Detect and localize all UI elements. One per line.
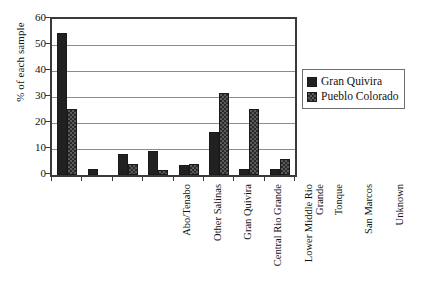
x-axis-category-label: San Marcos — [363, 184, 374, 293]
bar — [209, 132, 219, 175]
x-axis-category-label: Abo/Tenabo — [181, 184, 192, 293]
y-axis-tick-label: 60 — [6, 12, 46, 23]
bar — [239, 169, 249, 175]
bar-chart-figure: % of each sample 6050403020100 Abo/Tenab… — [0, 0, 422, 293]
bar — [270, 169, 280, 175]
x-axis-category-label-line: Grande — [314, 184, 325, 293]
bar-group — [174, 19, 204, 175]
bar — [88, 169, 98, 176]
x-axis-tick-mark — [81, 175, 82, 181]
bar-series-container — [52, 19, 295, 175]
chart-legend: Gran Quivira Pueblo Colorado — [302, 69, 405, 109]
x-axis-category-label: Unknown — [394, 184, 405, 293]
x-axis-tick-mark — [142, 175, 143, 181]
bar — [280, 159, 290, 175]
bar-group — [265, 19, 295, 175]
x-axis-tick-mark — [203, 175, 204, 181]
bar — [249, 109, 259, 175]
bar — [189, 164, 199, 175]
x-axis-category-label-line: Central Rio Grande — [272, 184, 283, 293]
bar — [179, 165, 189, 175]
y-axis-tick-label: 50 — [6, 38, 46, 49]
plot-area — [50, 17, 297, 177]
x-axis-category-label-line: San Marcos — [363, 184, 374, 293]
bar-group — [234, 19, 264, 175]
x-axis-tick-mark — [51, 175, 52, 181]
x-axis-category-label-line: Unknown — [394, 184, 405, 293]
legend-item-gran-quivira: Gran Quivira — [307, 74, 399, 89]
x-axis-category-label-line: Other Salinas — [212, 184, 223, 293]
bar — [128, 164, 138, 175]
x-axis-tick-mark — [112, 175, 113, 181]
x-axis-category-label-line: Tonque — [333, 184, 344, 293]
x-axis-category-label-line: Lower Middle Rio — [303, 184, 314, 293]
x-axis-category-label: Lower Middle RioGrande — [303, 184, 325, 293]
x-axis-category-label: Gran Quivira — [242, 184, 253, 293]
y-axis-tick-label: 40 — [6, 64, 46, 75]
bar-group — [82, 19, 112, 175]
bar-group — [52, 19, 82, 175]
bar-group — [143, 19, 173, 175]
legend-swatch-icon-gran-quivira — [307, 77, 317, 87]
y-axis-tick-label: 20 — [6, 116, 46, 127]
x-axis-category-label: Tonque — [333, 184, 344, 293]
x-axis-tick-mark — [173, 175, 174, 181]
legend-label-gran-quivira: Gran Quivira — [321, 75, 382, 88]
legend-label-pueblo-colorado: Pueblo Colorado — [321, 90, 399, 103]
x-axis-category-label: Other Salinas — [212, 184, 223, 293]
bar — [158, 170, 168, 175]
x-axis-tick-mark — [233, 175, 234, 181]
x-axis-category-label-line: Abo/Tenabo — [181, 184, 192, 293]
bar — [219, 93, 229, 175]
bar — [118, 154, 128, 175]
bar — [57, 33, 67, 175]
bar-group — [204, 19, 234, 175]
legend-swatch-icon-pueblo-colorado — [307, 92, 317, 102]
y-axis-tick-label: 30 — [6, 90, 46, 101]
x-axis-tick-mark — [294, 175, 295, 181]
bar — [67, 109, 77, 175]
bar — [148, 151, 158, 175]
legend-item-pueblo-colorado: Pueblo Colorado — [307, 89, 399, 104]
y-axis-tick-label: 10 — [6, 142, 46, 153]
bar-group — [113, 19, 143, 175]
y-axis-tick-label: 0 — [6, 168, 46, 179]
x-axis-tick-mark — [264, 175, 265, 181]
x-axis-category-label: Central Rio Grande — [272, 184, 283, 293]
x-axis-category-label-line: Gran Quivira — [242, 184, 253, 293]
